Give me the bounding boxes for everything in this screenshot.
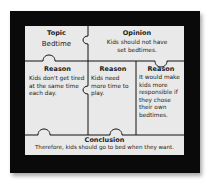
reason-label-1: Reason [29, 65, 86, 73]
reason-text-2: Kids need more time to play. [91, 75, 135, 98]
reason-cell-1: Reason Kids don't get tired at the same … [29, 65, 86, 98]
reason-cell-2: Reason Kids need more time to play. [91, 65, 135, 98]
reason-text-3: It would make kids more responsible if t… [139, 74, 183, 119]
topic-cell: Topic Bedtime [25, 29, 88, 49]
reason-label-2: Reason [91, 65, 135, 73]
reason-label-3: Reason [139, 65, 183, 73]
topic-label: Topic [25, 29, 88, 37]
topic-text: Bedtime [25, 39, 88, 49]
reason-cell-3: Reason It would make kids more responsib… [139, 65, 183, 119]
opinion-text: Kids should not have set bedtimes. [91, 39, 183, 54]
opinion-label: Opinion [91, 29, 183, 37]
conclusion-label: Conclusion [25, 136, 184, 144]
conclusion-text: Therefore, kids should go to bed when th… [25, 144, 184, 152]
reason-text-1: Kids don't get tired at the same time ea… [29, 75, 86, 98]
puzzle-organizer: Topic Bedtime Opinion Kids should not ha… [25, 26, 184, 155]
opinion-cell: Opinion Kids should not have set bedtime… [91, 29, 183, 54]
conclusion-cell: Conclusion Therefore, kids should go to … [25, 136, 184, 152]
